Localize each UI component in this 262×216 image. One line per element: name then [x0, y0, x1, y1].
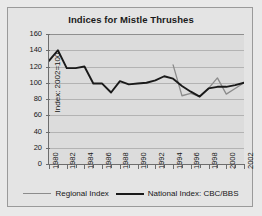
chart-frame: Indices for Mistle Thrushes Index: 2002=…	[7, 7, 253, 207]
legend-label-regional: Regional Index	[55, 189, 108, 198]
x-tick-label: 1996	[193, 152, 201, 169]
y-tick-label: 100	[16, 79, 42, 87]
x-tick-label: 1990	[140, 152, 148, 169]
y-tick-label: 40	[16, 128, 42, 136]
y-tick-label: 80	[16, 95, 42, 103]
x-tick-label: 1988	[122, 152, 130, 169]
y-tick-label: 140	[16, 46, 42, 54]
legend-swatch-national-icon	[116, 193, 144, 195]
y-tick-label: 120	[16, 63, 42, 71]
x-tick-label: 1992	[158, 152, 166, 169]
y-tick-label: 0	[16, 160, 42, 168]
y-axis-label: Index: 2002=100	[53, 23, 62, 143]
x-tick-label: 1982	[69, 152, 77, 169]
legend-label-national: National Index: CBC/BBS	[148, 189, 239, 198]
chart-legend: Regional Index National Index: CBC/BBS	[8, 189, 254, 198]
legend-entry-national: National Index: CBC/BBS	[116, 189, 239, 198]
y-tick-label: 60	[16, 111, 42, 119]
x-tick-label: 2000	[229, 152, 237, 169]
y-tick-label: 160	[16, 30, 42, 38]
x-tick-mark	[244, 164, 245, 169]
legend-swatch-regional-icon	[23, 193, 51, 194]
series-line	[173, 65, 244, 97]
x-tick-mark	[173, 164, 174, 169]
legend-entry-regional: Regional Index	[23, 189, 108, 198]
x-tick-label: 1994	[176, 152, 184, 169]
plot-area: Index: 2002=100	[48, 34, 244, 165]
series-line	[49, 50, 244, 96]
chart-title: Indices for Mistle Thrushes	[8, 14, 254, 25]
x-tick-mark	[49, 164, 50, 169]
x-tick-label: 1984	[87, 152, 95, 169]
x-tick-label: 2002	[247, 152, 255, 169]
x-tick-label: 1986	[105, 152, 113, 169]
y-tick-label: 20	[16, 144, 42, 152]
x-tick-label: 1998	[211, 152, 219, 169]
x-tick-label: 1980	[52, 152, 60, 169]
series-lines	[49, 34, 244, 164]
